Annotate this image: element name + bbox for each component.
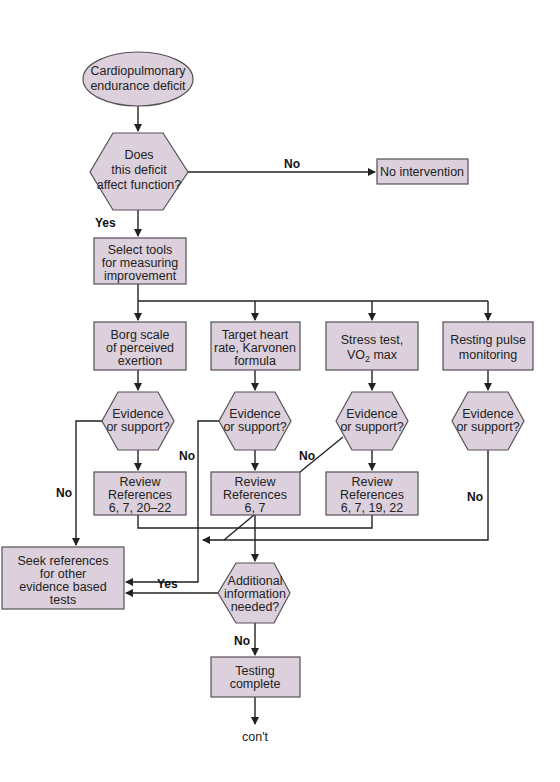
target-text-3: formula [234, 354, 276, 368]
additional-text-1: Additional [228, 574, 283, 588]
review-text-2: References [340, 488, 404, 502]
additional-text-2: information [224, 587, 286, 601]
no-intervention-text: No intervention [380, 165, 464, 179]
evidence-text-2: or support? [456, 420, 519, 434]
evidence-text-2: or support? [223, 420, 286, 434]
evidence-text-1: Evidence [346, 407, 397, 421]
review-text-1: Review [120, 475, 162, 489]
review-text-3: 6, 7, 19, 22 [341, 501, 404, 515]
start-text-2: endurance deficit [90, 79, 186, 93]
decision-affect-function: Does this deficit affect function? [90, 133, 188, 210]
label-no-stress: No [299, 449, 315, 463]
seek-text-3: evidence based [19, 580, 107, 594]
evidence-text-1: Evidence [112, 407, 163, 421]
seek-text-4: tests [50, 593, 76, 607]
evidence-text-1: Evidence [229, 407, 280, 421]
review-text-2: References [223, 488, 287, 502]
seek-text-1: Seek references [17, 554, 108, 568]
label-no-resting: No [467, 490, 483, 504]
select-tools-text-2: for measuring [102, 256, 178, 270]
decision-text-2: this deficit [111, 163, 167, 177]
label-no-borg: No [56, 486, 72, 500]
flowchart-canvas: Cardiopulmonary endurance deficit Does t… [0, 0, 560, 782]
evidence-decision-borg: Evidence or support? [102, 392, 174, 450]
stress-text-2: VO2 max [347, 348, 398, 364]
select-tools-text-1: Select tools [108, 243, 173, 257]
tool-stress-test: Stress test, VO2 max [326, 322, 418, 370]
evidence-decision-resting: Evidence or support? [452, 392, 524, 450]
label-no-function: No [284, 157, 300, 171]
label-yes-additional: Yes [157, 577, 178, 591]
testing-complete-box: Testing complete [211, 657, 300, 697]
target-text-2: rate, Karvonen [214, 341, 296, 355]
target-text-1: Target heart [222, 328, 289, 342]
review-text-2: References [108, 488, 172, 502]
stress-text-1: Stress test, [341, 333, 404, 347]
decision-text-1: Does [124, 148, 153, 162]
tool-target-heart-rate: Target heart rate, Karvonen formula [211, 322, 300, 370]
seek-references-box: Seek references for other evidence based… [2, 547, 124, 609]
seek-text-2: for other [40, 567, 87, 581]
select-tools-text-3: improvement [104, 269, 177, 283]
additional-info-decision: Additional information needed? [218, 563, 290, 623]
review-box-stress: Review References 6, 7, 19, 22 [326, 472, 418, 515]
evidence-text-1: Evidence [462, 407, 513, 421]
continuation-label: con't [242, 730, 269, 744]
max-text: max [370, 348, 398, 362]
review-text-3: 6, 7, 20–22 [109, 501, 172, 515]
review-box-borg: Review References 6, 7, 20–22 [94, 472, 186, 515]
start-node: Cardiopulmonary endurance deficit [83, 52, 193, 106]
borg-text-3: exertion [118, 354, 163, 368]
evidence-text-2: or support? [106, 420, 169, 434]
no-intervention-box: No intervention [377, 159, 468, 184]
label-yes-function: Yes [95, 216, 116, 230]
decision-text-3: affect function? [97, 178, 182, 192]
review-text-3: 6, 7 [245, 501, 266, 515]
evidence-decision-target: Evidence or support? [219, 392, 291, 450]
tool-borg-scale: Borg scale of perceived exertion [94, 322, 186, 370]
review-box-target: Review References 6, 7 [211, 472, 300, 515]
label-no-target: No [179, 449, 195, 463]
tool-resting-pulse: Resting pulse monitoring [443, 322, 533, 370]
evidence-decision-stress: Evidence or support? [336, 392, 408, 450]
select-tools-box: Select tools for measuring improvement [94, 238, 186, 284]
resting-text-2: monitoring [459, 348, 517, 362]
borg-text-2: of perceived [106, 341, 174, 355]
testing-text-1: Testing [235, 664, 275, 678]
additional-text-3: needed? [231, 600, 280, 614]
review-text-1: Review [352, 475, 394, 489]
borg-text-1: Borg scale [110, 328, 169, 342]
testing-text-2: complete [230, 677, 281, 691]
start-text-1: Cardiopulmonary [90, 64, 186, 78]
label-no-additional: No [234, 634, 250, 648]
review-text-1: Review [235, 475, 277, 489]
evidence-text-2: or support? [340, 420, 403, 434]
resting-text-1: Resting pulse [450, 333, 526, 347]
vo-text: VO [347, 348, 365, 362]
